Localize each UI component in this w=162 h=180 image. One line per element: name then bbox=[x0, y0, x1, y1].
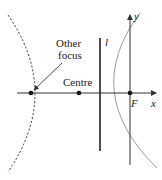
y-axis-label: y bbox=[133, 10, 139, 22]
focus-f-point bbox=[128, 91, 133, 96]
directrix-label: l bbox=[105, 36, 108, 48]
centre-label: Centre bbox=[63, 76, 92, 88]
right-branch-curve bbox=[114, 13, 157, 168]
other-focus-label-line2: focus bbox=[58, 49, 82, 61]
other-focus-pointer-arrow bbox=[34, 63, 62, 90]
hyperbola-diagram: Other focus Centre l F x y bbox=[0, 0, 162, 180]
other-focus-point bbox=[29, 91, 34, 96]
other-focus-label-line1: Other bbox=[56, 37, 81, 49]
x-axis-label: x bbox=[150, 97, 156, 109]
centre-point bbox=[77, 91, 82, 96]
focus-f-label: F bbox=[130, 97, 138, 109]
